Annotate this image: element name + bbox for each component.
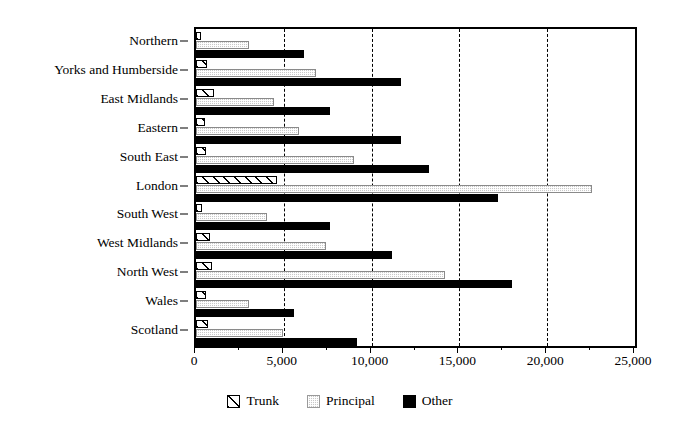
plot-area xyxy=(194,27,637,348)
bar-other-south-west xyxy=(196,222,330,230)
bar-other-northern xyxy=(196,50,304,58)
category-tick xyxy=(180,99,188,100)
x-tick-minor-7500 xyxy=(326,346,327,350)
bar-trunk-northern xyxy=(196,32,201,40)
category-tick xyxy=(180,185,188,186)
bar-trunk-wales xyxy=(196,291,206,299)
bar-other-east-midlands xyxy=(196,107,330,115)
x-tick-label-0: 0 xyxy=(191,354,198,368)
bar-principal-northern xyxy=(196,41,249,49)
bar-principal-south-west xyxy=(196,213,267,221)
category-tick xyxy=(180,41,188,42)
x-tick-label-15000: 15,000 xyxy=(439,354,476,368)
bar-trunk-london xyxy=(196,176,277,184)
bar-trunk-east-midlands xyxy=(196,89,214,97)
bar-other-eastern xyxy=(196,136,401,144)
category-label-scotland: Scotland xyxy=(131,323,178,337)
category-label-south-east: South East xyxy=(120,150,178,164)
chart-legend: TrunkPrincipalOther xyxy=(0,388,680,414)
bar-principal-east-midlands xyxy=(196,98,274,106)
category-tick xyxy=(180,127,188,128)
x-tick-major-10000 xyxy=(370,346,371,353)
bar-principal-north-west xyxy=(196,271,445,279)
category-label-north-west: North West xyxy=(117,265,178,279)
category-label-east-midlands: East Midlands xyxy=(100,92,178,106)
bar-principal-london xyxy=(196,185,592,193)
bar-other-yorks-and-humberside xyxy=(196,78,401,86)
legend-label-principal: Principal xyxy=(326,394,375,408)
bar-other-west-midlands xyxy=(196,251,392,259)
category-label-west-midlands: West Midlands xyxy=(97,236,178,250)
category-label-south-west: South West xyxy=(117,208,178,222)
legend-label-trunk: Trunk xyxy=(246,394,279,408)
bar-principal-west-midlands xyxy=(196,242,326,250)
bar-other-london xyxy=(196,194,498,202)
trunk-hatch-swatch xyxy=(227,395,240,408)
bar-principal-yorks-and-humberside xyxy=(196,69,316,77)
bar-trunk-eastern xyxy=(196,118,205,126)
x-tick-major-20000 xyxy=(545,346,546,353)
x-tick-major-0 xyxy=(194,346,195,353)
category-tick xyxy=(180,243,188,244)
principal-stipple-swatch xyxy=(307,395,320,408)
bar-principal-south-east xyxy=(196,156,354,164)
x-tick-label-20000: 20,000 xyxy=(527,354,564,368)
category-label-wales: Wales xyxy=(145,294,178,308)
x-tick-minor-22500 xyxy=(589,346,590,350)
x-tick-label-5000: 5,000 xyxy=(267,354,297,368)
bar-other-scotland xyxy=(196,338,357,346)
category-tick xyxy=(180,214,188,215)
bar-chart: NorthernYorks and HumbersideEast Midland… xyxy=(0,0,680,433)
bar-trunk-scotland xyxy=(196,320,208,328)
plot-inner xyxy=(196,29,635,346)
bar-other-south-east xyxy=(196,165,429,173)
category-tick xyxy=(180,300,188,301)
category-tick xyxy=(180,271,188,272)
x-tick-label-25000: 25,000 xyxy=(614,354,651,368)
x-tick-label-10000: 10,000 xyxy=(351,354,388,368)
x-axis: 05,00010,00015,00020,00025,000 xyxy=(194,346,633,386)
other-solid-swatch xyxy=(403,395,416,408)
category-label-yorks-and-humberside: Yorks and Humberside xyxy=(54,63,178,77)
category-label-london: London xyxy=(136,179,178,193)
legend-entry-other[interactable]: Other xyxy=(403,394,453,408)
legend-entry-principal[interactable]: Principal xyxy=(307,394,375,408)
bar-trunk-north-west xyxy=(196,262,212,270)
bar-trunk-yorks-and-humberside xyxy=(196,60,207,68)
x-tick-major-5000 xyxy=(282,346,283,353)
bar-other-wales xyxy=(196,309,294,317)
bar-principal-wales xyxy=(196,300,249,308)
x-tick-major-15000 xyxy=(457,346,458,353)
bar-trunk-south-east xyxy=(196,147,206,155)
legend-entry-trunk[interactable]: Trunk xyxy=(227,394,279,408)
bar-trunk-south-west xyxy=(196,204,202,212)
x-tick-minor-17500 xyxy=(501,346,502,350)
category-tick xyxy=(180,156,188,157)
bar-other-north-west xyxy=(196,280,512,288)
x-tick-minor-2500 xyxy=(238,346,239,350)
category-label-northern: Northern xyxy=(129,35,178,49)
bar-trunk-west-midlands xyxy=(196,233,210,241)
category-tick xyxy=(180,70,188,71)
category-tick xyxy=(180,329,188,330)
bar-principal-eastern xyxy=(196,127,299,135)
bar-principal-scotland xyxy=(196,329,283,337)
category-label-eastern: Eastern xyxy=(138,121,178,135)
x-tick-major-25000 xyxy=(633,346,634,353)
category-axis: NorthernYorks and HumbersideEast Midland… xyxy=(0,27,188,344)
legend-label-other: Other xyxy=(422,394,453,408)
x-tick-minor-12500 xyxy=(414,346,415,350)
